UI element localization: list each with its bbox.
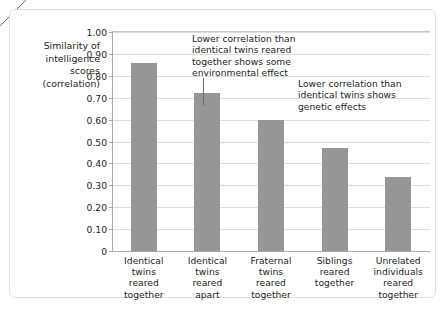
y-tick-mark — [109, 142, 112, 143]
bar — [258, 120, 284, 251]
y-tick-mark — [109, 120, 112, 121]
category-label-line: Siblings — [303, 255, 367, 266]
category-label-line: together — [239, 289, 303, 300]
category-label-line: apart — [176, 289, 240, 300]
chart-figure: Similarity of intelligence scores (corre… — [0, 0, 448, 309]
x-axis-category-label: Identicaltwinsrearedtogether — [112, 255, 176, 300]
category-label-line: Identical — [112, 255, 176, 266]
annotation-leader-line — [203, 78, 204, 106]
x-axis-line — [112, 251, 430, 252]
y-tick-label: 0.50 — [87, 136, 107, 147]
y-tick-mark — [109, 163, 112, 164]
bar — [131, 63, 157, 251]
x-axis-category-label: Identicaltwinsrearedapart — [176, 255, 240, 300]
x-axis-category-label: Siblingsrearedtogether — [303, 255, 367, 289]
category-label-line: reared — [366, 277, 430, 288]
y-tick-label: 0.60 — [87, 114, 107, 125]
y-tick-mark — [109, 76, 112, 77]
bar — [194, 93, 220, 251]
annotation-genetic-effects: Lower correlation than identical twins s… — [298, 78, 402, 112]
bar — [385, 177, 411, 251]
category-label-line: twins — [176, 266, 240, 277]
annotation-line: environmental effect — [192, 67, 296, 78]
category-label-line: Identical — [176, 255, 240, 266]
y-tick-label: 0.90 — [87, 48, 107, 59]
category-label-line: twins — [112, 266, 176, 277]
category-label-line: Unrelated — [366, 255, 430, 266]
annotation-line: Lower correlation than — [298, 78, 402, 89]
y-tick-label: 0.80 — [87, 70, 107, 81]
category-label-line: twins — [239, 266, 303, 277]
category-label-line: reared — [239, 277, 303, 288]
category-label-line: reared — [112, 277, 176, 288]
x-axis-category-label: Fraternaltwinsrearedtogether — [239, 255, 303, 300]
y-tick-mark — [109, 185, 112, 186]
annotation-environmental-effect: Lower correlation than identical twins r… — [192, 33, 296, 79]
annotation-line: together shows some — [192, 56, 296, 67]
y-tick-label: 0.70 — [87, 92, 107, 103]
y-tick-label: 0 — [101, 246, 107, 257]
y-tick-mark — [109, 54, 112, 55]
y-tick-label: 0.30 — [87, 180, 107, 191]
y-tick-mark — [109, 98, 112, 99]
category-label-line: individuals — [366, 266, 430, 277]
y-tick-label: 0.40 — [87, 158, 107, 169]
bar — [322, 148, 348, 251]
y-tick-mark — [109, 32, 112, 33]
category-label-line: together — [112, 289, 176, 300]
category-label-line: reared — [303, 266, 367, 277]
category-label-line: reared — [176, 277, 240, 288]
annotation-line: Lower correlation than — [192, 33, 296, 44]
annotation-line: genetic effects — [298, 101, 402, 112]
y-tick-mark — [109, 207, 112, 208]
category-label-line: together — [303, 277, 367, 288]
y-tick-mark — [109, 251, 112, 252]
y-tick-label: 1.00 — [87, 27, 107, 38]
x-axis-category-label: Unrelatedindividualsrearedtogether — [366, 255, 430, 300]
category-label-line: Fraternal — [239, 255, 303, 266]
annotation-line: identical twins shows — [298, 89, 402, 100]
annotation-line: identical twins reared — [192, 44, 296, 55]
y-tick-label: 0.20 — [87, 202, 107, 213]
y-tick-mark — [109, 229, 112, 230]
y-tick-label: 0.10 — [87, 224, 107, 235]
category-label-line: together — [366, 289, 430, 300]
